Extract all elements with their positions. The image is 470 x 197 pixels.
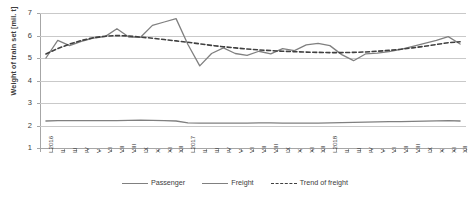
legend-item[interactable]: Freight — [202, 179, 253, 187]
series-line — [46, 36, 460, 54]
legend-item[interactable]: Trend of freight — [271, 179, 348, 187]
series-line — [46, 120, 460, 123]
legend-swatch-icon — [122, 183, 148, 184]
legend-label: Trend of freight — [300, 179, 348, 187]
legend-label: Freight — [231, 179, 253, 187]
legend-item[interactable]: Passenger — [122, 179, 185, 187]
legend-swatch-icon — [202, 183, 228, 184]
plot-lines — [0, 0, 470, 197]
chart-legend: PassengerFreightTrend of freight — [0, 176, 470, 190]
legend-label: Passenger — [151, 179, 185, 187]
series-line — [46, 19, 460, 66]
legend-swatch-icon — [271, 183, 297, 184]
chart-container: Weight of train set [mil. t] 1234567 I 2… — [0, 0, 470, 197]
